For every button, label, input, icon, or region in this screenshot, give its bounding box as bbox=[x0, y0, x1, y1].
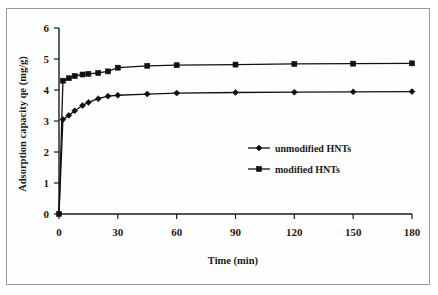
y-tick-label-6: 6 bbox=[44, 22, 50, 34]
data-point-0-8 bbox=[115, 92, 121, 98]
legend-item-unmodified-hnts[interactable]: unmodified HNTs bbox=[248, 143, 351, 154]
y-tick-label-1: 1 bbox=[44, 177, 50, 189]
legend-marker-square bbox=[257, 167, 262, 172]
data-point-1-1 bbox=[60, 78, 65, 83]
data-point-1-5 bbox=[86, 71, 91, 76]
y-tick-label-4: 4 bbox=[44, 84, 50, 96]
data-point-1-4 bbox=[80, 72, 85, 77]
x-tick-label-60: 60 bbox=[171, 226, 183, 238]
axes-group bbox=[54, 28, 412, 219]
data-point-1-2 bbox=[66, 76, 71, 81]
data-point-0-7 bbox=[105, 93, 111, 99]
x-tick-label-120: 120 bbox=[286, 226, 303, 238]
series-line-0 bbox=[59, 92, 412, 214]
data-point-1-7 bbox=[106, 69, 111, 74]
data-series-group bbox=[57, 61, 416, 217]
y-axis-title: Adsorption capacity qe (mg/g) bbox=[17, 56, 29, 192]
x-tick-label-180: 180 bbox=[404, 226, 421, 238]
legend-label-1: modified HNTs bbox=[275, 164, 340, 175]
x-axis-title: Time (min) bbox=[208, 255, 259, 267]
legend-marker-diamond bbox=[256, 145, 262, 151]
x-tick-label-90: 90 bbox=[230, 226, 242, 238]
data-point-1-0 bbox=[57, 212, 62, 217]
data-point-1-13 bbox=[351, 61, 356, 66]
y-tick-label-2: 2 bbox=[44, 146, 50, 158]
data-point-0-5 bbox=[85, 99, 91, 105]
data-point-1-3 bbox=[72, 74, 77, 79]
data-point-1-6 bbox=[96, 70, 101, 75]
series-unmodified-hnts bbox=[59, 89, 415, 214]
y-axis-tick-labels: 0123456 bbox=[44, 22, 50, 220]
legend-label-0: unmodified HNTs bbox=[275, 143, 351, 154]
y-tick-label-3: 3 bbox=[44, 115, 50, 127]
data-point-1-11 bbox=[233, 62, 238, 67]
x-tick-label-30: 30 bbox=[112, 226, 124, 238]
data-point-0-11 bbox=[233, 89, 239, 95]
series-modified-hnts bbox=[57, 61, 415, 217]
data-point-0-13 bbox=[350, 89, 356, 95]
figure-container: 0123456 0306090120150180 Time (min) Adso… bbox=[0, 0, 438, 295]
data-point-1-8 bbox=[115, 65, 120, 70]
series-line-1 bbox=[59, 63, 412, 214]
x-axis-ticks bbox=[59, 214, 412, 219]
x-axis-tick-labels: 0306090120150180 bbox=[56, 226, 421, 238]
data-point-0-9 bbox=[144, 91, 150, 97]
y-axis-ticks bbox=[54, 28, 59, 214]
legend-item-modified-hnts[interactable]: modified HNTs bbox=[248, 164, 340, 175]
data-point-0-12 bbox=[291, 89, 297, 95]
data-point-1-9 bbox=[145, 63, 150, 68]
data-point-0-10 bbox=[174, 90, 180, 96]
data-point-1-10 bbox=[174, 63, 179, 68]
data-point-1-14 bbox=[410, 61, 415, 66]
data-point-0-14 bbox=[409, 89, 415, 95]
data-point-1-12 bbox=[292, 61, 297, 66]
data-point-0-6 bbox=[95, 96, 101, 102]
y-tick-label-0: 0 bbox=[44, 208, 50, 220]
chart-legend: unmodified HNTsmodified HNTs bbox=[248, 143, 351, 175]
adsorption-kinetics-chart: 0123456 0306090120150180 Time (min) Adso… bbox=[0, 0, 438, 295]
y-tick-label-5: 5 bbox=[44, 53, 50, 65]
x-tick-label-0: 0 bbox=[56, 226, 62, 238]
x-tick-label-150: 150 bbox=[345, 226, 362, 238]
